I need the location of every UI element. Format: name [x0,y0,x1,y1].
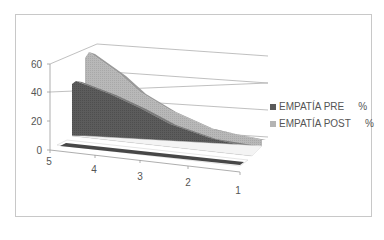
chart-legend: EMPATÍA PRE % EMPATÍA POST % [270,98,374,132]
svg-text:1: 1 [235,185,241,196]
svg-text:5: 5 [46,156,52,167]
legend-unit-pre: % [358,101,367,112]
svg-text:2: 2 [185,177,191,188]
legend-swatch-pre [270,104,276,110]
legend-item-post: EMPATÍA POST % [270,115,374,132]
legend-item-pre: EMPATÍA PRE % [270,98,374,115]
svg-text:3: 3 [137,171,143,182]
svg-text:0: 0 [36,145,42,156]
svg-text:4: 4 [91,164,97,175]
y-tick-labels: 60 40 20 0 [31,59,43,156]
svg-text:60: 60 [31,59,43,70]
legend-unit-post: % [365,118,374,129]
y-axis [47,64,50,150]
svg-text:20: 20 [31,116,43,127]
legend-label-post: EMPATÍA POST [279,118,351,129]
legend-swatch-post [270,121,276,127]
legend-label-pre: EMPATÍA PRE [279,101,344,112]
svg-text:40: 40 [31,87,43,98]
